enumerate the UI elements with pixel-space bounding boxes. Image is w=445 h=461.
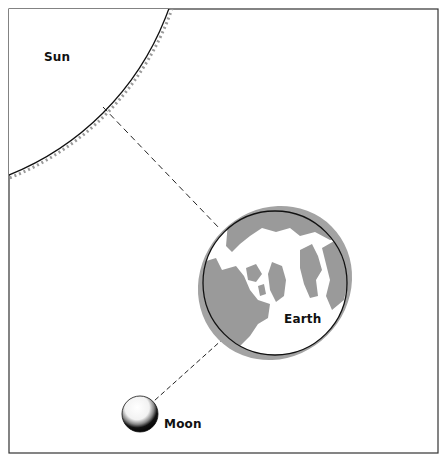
sun-earth-moon-diagram [0, 0, 445, 461]
sun-label: Sun [44, 50, 70, 64]
moon-body [122, 396, 158, 432]
earth-label: Earth [284, 312, 322, 326]
moon-label: Moon [164, 417, 202, 431]
